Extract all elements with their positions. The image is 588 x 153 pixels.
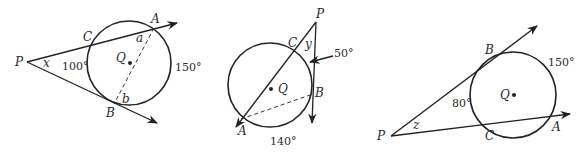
arc-80: 80° [452, 97, 472, 110]
arc-100: 100° [62, 60, 89, 73]
label-p: P [376, 129, 386, 143]
figure-2: P C A B Q y 50° 140° [228, 7, 354, 148]
label-z: z [412, 118, 420, 132]
label-a: A [551, 120, 561, 134]
label-a-angle: a [136, 31, 143, 45]
label-c: C [288, 36, 297, 50]
label-q: Q [116, 51, 126, 65]
figure-1: P C A B Q x a b 100° 150° [14, 12, 202, 123]
label-b-angle: b [122, 92, 130, 106]
label-x: x [43, 56, 50, 70]
secant-pca [236, 22, 316, 127]
label-q: Q [278, 82, 288, 96]
center-point [512, 93, 516, 97]
label-p: P [315, 7, 325, 21]
label-b: B [484, 43, 494, 57]
label-b: B [105, 106, 115, 120]
arc-150: 150° [175, 61, 202, 74]
tangent-pb [27, 62, 157, 123]
figure-3: P B C A Q z 80° 150° [376, 26, 575, 143]
label-b: B [314, 86, 324, 100]
label-y: y [304, 37, 312, 51]
label-a: A [150, 12, 160, 26]
chord-ab [114, 28, 154, 104]
center-point [269, 87, 273, 91]
label-a: A [237, 124, 247, 138]
label-c: C [485, 129, 494, 143]
tangent-pb [312, 22, 316, 123]
label-q: Q [500, 88, 510, 102]
arc-pointer [310, 56, 333, 62]
label-p: P [14, 55, 24, 69]
label-c: C [83, 30, 92, 44]
arc-150: 150° [548, 56, 575, 69]
diagram-canvas: P C A B Q x a b 100° 150° P C A B Q y 50… [0, 0, 588, 153]
center-point [128, 61, 132, 65]
circle-q [228, 43, 312, 127]
arc-140: 140° [270, 135, 297, 148]
arc-50: 50° [334, 47, 354, 60]
